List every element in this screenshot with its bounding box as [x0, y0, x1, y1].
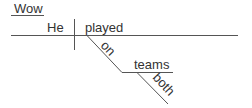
sentence-diagram: Wow He played on teams both [0, 0, 252, 108]
subject-word: He [47, 20, 64, 35]
verb-word: played [85, 20, 123, 35]
preposition-word: on [98, 38, 119, 59]
modifier-word: both [150, 70, 178, 99]
object-word: teams [134, 57, 170, 72]
interjection-word: Wow [14, 1, 43, 16]
